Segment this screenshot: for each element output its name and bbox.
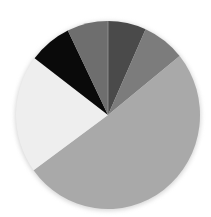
pie-chart bbox=[0, 0, 211, 217]
pie-slices bbox=[16, 21, 200, 209]
